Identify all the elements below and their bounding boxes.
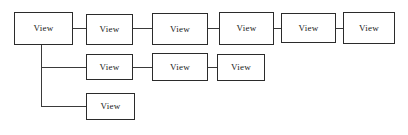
node-label: View: [231, 63, 251, 72]
node-label: View: [359, 24, 379, 33]
node-label: View: [170, 25, 190, 34]
view-hierarchy-diagram: View View View View View View View View …: [0, 0, 408, 135]
node-label: View: [100, 63, 120, 72]
node-top-4[interactable]: View: [219, 12, 274, 45]
node-top-5[interactable]: View: [281, 13, 336, 43]
node-label: View: [237, 24, 257, 33]
node-label: View: [170, 63, 190, 72]
node-top-2[interactable]: View: [86, 14, 133, 45]
node-top-3[interactable]: View: [152, 13, 208, 45]
node-bottom-1[interactable]: View: [86, 93, 135, 120]
node-top-1[interactable]: View: [14, 12, 73, 45]
node-label: View: [34, 24, 54, 33]
node-label: View: [100, 25, 120, 34]
node-middle-2[interactable]: View: [152, 53, 208, 81]
node-middle-1[interactable]: View: [86, 54, 133, 80]
node-middle-3[interactable]: View: [217, 54, 265, 81]
node-label: View: [299, 24, 319, 33]
node-label: View: [101, 102, 121, 111]
node-top-6[interactable]: View: [343, 12, 395, 44]
